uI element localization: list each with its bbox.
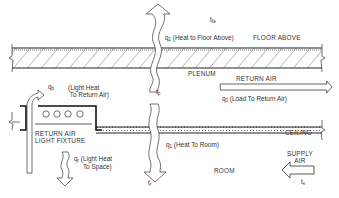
supply-air-label: SUPPLYAIR xyxy=(287,150,313,165)
return-air-arrow xyxy=(220,81,332,93)
q2-label: q2 (Heat to Floor Above) xyxy=(165,35,234,43)
qr-wavy-arrow xyxy=(57,152,73,186)
qb-text: (Light Heat To Return Air) xyxy=(68,84,109,99)
return-air-label: RETURN AIR xyxy=(236,76,277,82)
q3-label: q3 (Load To Return Air) xyxy=(222,96,287,104)
room-label: ROOM xyxy=(214,168,235,174)
tr-label: tr xyxy=(148,180,151,188)
qb-label: qb xyxy=(48,84,54,92)
qr-label: qr (Light Heat To Space) xyxy=(74,155,112,171)
q1-wavy-arrow xyxy=(144,104,166,182)
plenum-label: PLENUM xyxy=(188,71,216,77)
light-fixture xyxy=(9,106,102,130)
floor-above-label: FLOOR ABOVE xyxy=(253,35,301,41)
q1-label: q1 (Heat To Room) xyxy=(166,142,219,150)
fixture-label: RETURN AIRLIGHT FIXTURE xyxy=(35,130,85,145)
floor-slab xyxy=(9,44,325,72)
ts-label: ts xyxy=(301,179,305,187)
t-fa-label: tfa xyxy=(210,17,216,25)
tp-label: tp xyxy=(156,89,160,97)
diagram-canvas xyxy=(0,0,339,198)
ceiling-label: CEILING xyxy=(285,130,312,136)
